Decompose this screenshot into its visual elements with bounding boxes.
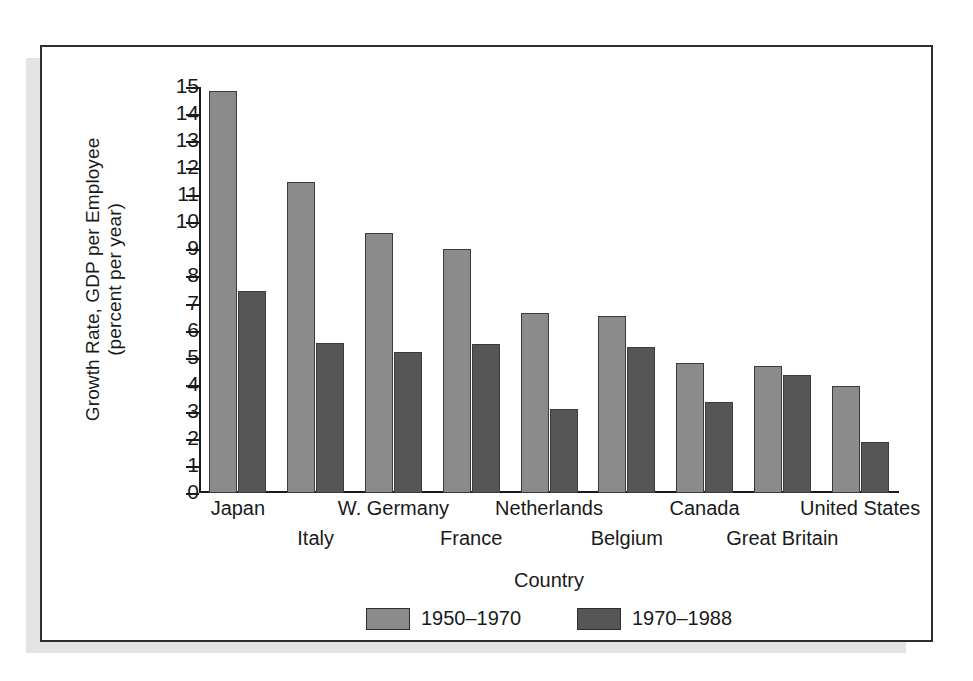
bar [238,291,266,493]
x-axis-category-label: France [440,527,502,550]
bar [705,402,733,493]
bar [783,375,811,493]
legend-swatch [577,608,621,630]
bar [598,316,626,493]
bar [550,409,578,493]
x-axis-category-label: Netherlands [495,497,603,520]
x-axis-category-labels: JapanItalyW. GermanyFranceNetherlandsBel… [199,497,899,567]
legend-swatch [366,608,410,630]
y-axis-tick-label: 9 [159,236,199,260]
bar [287,182,315,493]
figure-frame: Growth Rate, GDP per Employee (percent p… [40,45,933,642]
y-axis-tick-label: 10 [159,209,199,233]
y-axis-tick-label: 13 [159,128,199,152]
x-axis-title: Country [199,569,899,592]
y-axis-tick-label: 15 [159,74,199,98]
x-axis-category-label: United States [800,497,920,520]
chart-legend: 1950–19701970–1988 [199,607,899,630]
y-axis-tick-label: 12 [159,155,199,179]
y-axis-tick-label: 2 [159,426,199,450]
y-axis-tick-label: 5 [159,345,199,369]
y-axis-tick-label: 11 [159,182,199,206]
x-axis-category-label: Great Britain [726,527,838,550]
x-axis-category-label: Japan [211,497,266,520]
bar [832,386,860,493]
x-axis-category-label: Canada [670,497,740,520]
bar [209,91,237,493]
y-axis-tick-label: 0 [159,480,199,504]
bar [754,366,782,493]
y-axis-title: Growth Rate, GDP per Employee (percent p… [82,69,127,489]
x-axis-category-label: Belgium [591,527,663,550]
bar [394,352,422,493]
y-axis-tick-label: 3 [159,399,199,423]
y-axis-tick-label: 14 [159,101,199,125]
bar [316,343,344,493]
bar [676,363,704,493]
legend-item: 1970–1988 [577,607,732,630]
bar [365,233,393,493]
y-axis-tick-label: 6 [159,318,199,342]
y-axis-tick-label: 7 [159,291,199,315]
bar [627,347,655,493]
x-axis-category-label: W. Germany [338,497,449,520]
legend-label: 1970–1988 [632,607,732,630]
x-axis-category-label: Italy [297,527,334,550]
bar [472,344,500,493]
bar [521,313,549,493]
figure-root: Growth Rate, GDP per Employee (percent p… [0,0,973,681]
plot-area: Growth Rate, GDP per Employee (percent p… [42,47,935,640]
y-axis-tick-label: 8 [159,263,199,287]
bar [443,249,471,493]
legend-item: 1950–1970 [366,607,521,630]
bar [861,442,889,493]
legend-label: 1950–1970 [421,607,521,630]
y-axis-tick-label: 1 [159,453,199,477]
bars-layer [199,87,899,493]
y-axis-tick-label: 4 [159,372,199,396]
